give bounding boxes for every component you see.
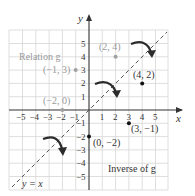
y-axis-arrow-icon — [86, 14, 92, 21]
label-0-neg2: (0, −2) — [93, 137, 120, 149]
point-neg1-3 — [74, 68, 78, 72]
y-axis-label: y — [77, 12, 83, 24]
svg-text:5: 5 — [153, 112, 158, 122]
label-3-neg1: (3, −1) — [131, 123, 158, 135]
label-4-2: (4, 2) — [133, 69, 155, 81]
svg-text:5: 5 — [81, 39, 86, 49]
svg-text:−5: −5 — [76, 172, 86, 182]
svg-text:4: 4 — [140, 112, 145, 122]
point-0-neg2 — [87, 135, 91, 139]
svg-text:−2: −2 — [76, 132, 86, 142]
relation-g-title: Relation g — [19, 51, 60, 62]
x-tick-labels: −5 −4 −3 −2 −1 1 2 3 4 5 — [16, 112, 158, 122]
svg-text:1: 1 — [100, 112, 105, 122]
svg-text:3: 3 — [81, 65, 86, 75]
arrowhead-icon — [58, 147, 67, 156]
svg-text:1: 1 — [81, 92, 86, 102]
axes — [9, 16, 182, 190]
point-4-2 — [140, 81, 144, 85]
label-neg2-0: (−2, 0) — [43, 95, 70, 107]
reflection-arrow-icon — [43, 137, 62, 149]
svg-text:4: 4 — [81, 52, 86, 62]
svg-text:−5: −5 — [16, 112, 26, 122]
point-neg2-0 — [60, 108, 64, 112]
svg-text:−4: −4 — [76, 158, 86, 168]
svg-text:2: 2 — [81, 78, 86, 88]
svg-text:−3: −3 — [43, 112, 53, 122]
svg-text:−3: −3 — [76, 145, 86, 155]
svg-text:−4: −4 — [30, 112, 40, 122]
svg-text:3: 3 — [126, 112, 131, 122]
line-y-equals-x-label: y = x — [21, 178, 43, 189]
svg-text:−2: −2 — [56, 112, 66, 122]
svg-text:2: 2 — [113, 112, 118, 122]
svg-text:−1: −1 — [76, 118, 86, 128]
point-2-4 — [114, 55, 118, 59]
label-2-4: (2, 4) — [99, 41, 121, 53]
inverse-g-title: Inverse of g — [108, 163, 156, 174]
inverse-relation-graph: x y −5 −4 −3 −2 −1 1 2 3 4 5 5 4 3 2 1 −… — [0, 0, 195, 196]
x-axis-label: x — [175, 112, 181, 124]
label-neg1-3: (−1, 3) — [43, 64, 70, 76]
